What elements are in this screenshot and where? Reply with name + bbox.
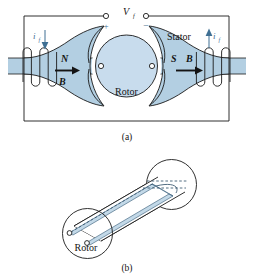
current-right-label: i xyxy=(213,31,216,41)
voltage-source-subscript: f xyxy=(133,13,136,19)
south-pole-label: S xyxy=(171,53,177,64)
rotor-conductor-right-icon xyxy=(149,63,154,68)
synchronous-machine-figure: V f + − xyxy=(0,0,254,278)
rotor-label-a: Rotor xyxy=(115,86,138,97)
figure-canvas: V f + − xyxy=(0,0,254,278)
current-right-subscript: f xyxy=(219,37,222,43)
voltage-source-label: V xyxy=(123,6,131,17)
flux-right-label: B xyxy=(185,53,193,64)
flux-left-label: B xyxy=(58,76,66,87)
current-arrow-right xyxy=(206,29,213,49)
terminal-negative-icon xyxy=(143,13,148,18)
current-arrow-left xyxy=(42,30,49,50)
panel-a-group: V f + − xyxy=(8,6,246,143)
current-left-subscript: f xyxy=(39,37,42,43)
rotor-conductor-left-icon xyxy=(98,63,103,68)
caption-a: (a) xyxy=(122,132,133,143)
current-left-label: i xyxy=(33,31,36,41)
rotor-label-b: Rotor xyxy=(75,242,98,253)
stator-label: Stator xyxy=(167,31,192,42)
rotor-slot-left-icon xyxy=(67,231,72,236)
panel-b-group: Rotor (b) xyxy=(63,160,197,275)
terminal-minus-sign: − xyxy=(143,20,149,31)
terminal-positive-icon xyxy=(103,13,108,18)
current-arrow-right-head xyxy=(206,29,213,37)
north-pole-label: N xyxy=(60,53,69,64)
caption-b: (b) xyxy=(121,263,132,274)
